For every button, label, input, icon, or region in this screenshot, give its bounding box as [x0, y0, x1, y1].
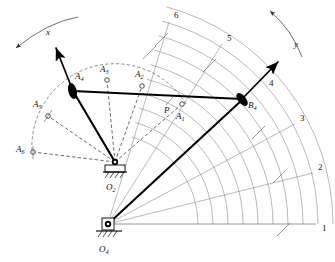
mechanism-links: [73, 91, 242, 224]
position-nodes: [31, 78, 185, 159]
ground-pivot-O2: [103, 159, 127, 178]
label-ray-3: 3: [300, 113, 305, 123]
label-A2: A2: [134, 69, 145, 80]
label-ray-6: 6: [174, 10, 179, 20]
label-ray-2: 2: [318, 162, 323, 172]
coupler-point-arc: [32, 64, 186, 152]
label-axis-y: y: [293, 39, 298, 49]
rotation-arrow-y: [270, 11, 302, 57]
node-A1: [180, 102, 185, 107]
label-A1: A1: [175, 111, 185, 122]
tick-A5: [44, 110, 52, 122]
label-A6: A6: [15, 144, 26, 155]
label-ray-5: 5: [227, 33, 232, 43]
pivot-O2-hatching: [105, 172, 124, 178]
grid-ray-ticks: [143, 33, 290, 236]
spoke-O2-A6: [33, 152, 115, 162]
arc-through-A-points: [32, 64, 186, 152]
label-ray-4: 4: [269, 78, 274, 88]
pivot-O4-hatching: [98, 231, 117, 237]
labels: O2 O4 A1 A2 A3 A4 A5 A6: [15, 10, 327, 255]
label-A3: A3: [99, 64, 109, 75]
ray-3-line: [108, 124, 295, 224]
label-A5: A5: [32, 99, 42, 110]
node-A3: [105, 78, 110, 83]
label-B4: B4: [248, 100, 257, 111]
figure-root: O2 O4 A1 A2 A3 A4 A5 A6: [0, 0, 335, 262]
label-P: P: [163, 105, 170, 115]
label-O2: O2: [106, 182, 117, 193]
label-A4: A4: [74, 71, 84, 82]
node-A2: [140, 84, 145, 89]
label-O4: O4: [99, 244, 109, 255]
link-O2-A4: [73, 91, 115, 162]
label-ray-1: 1: [322, 223, 327, 233]
ray-2-line: [108, 173, 313, 224]
linkage-diagram-svg: O2 O4 A1 A2 A3 A4 A5 A6: [0, 0, 335, 262]
rotation-arrows: [16, 11, 302, 57]
ground-pivot-O4: [96, 218, 122, 237]
pivot-O2-base: [105, 165, 125, 172]
link-A4-B4: [73, 91, 242, 99]
label-axis-x: x: [45, 27, 50, 37]
